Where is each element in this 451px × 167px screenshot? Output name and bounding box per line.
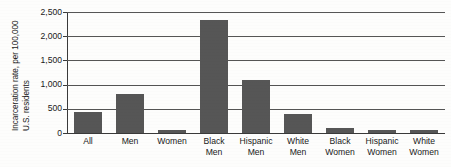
y-axis-tick-labels: 05001,0001,5002,0002,500 [26, 12, 62, 133]
x-axis-tick-label: Men [109, 136, 151, 147]
bar [74, 112, 102, 133]
x-axis-tick-label-line: Black [319, 136, 361, 147]
x-axis-tick-label: BlackMen [193, 136, 235, 157]
gridline [67, 12, 445, 13]
y-axis-tick-mark [63, 133, 67, 134]
x-axis-tick-label-line: Women [319, 147, 361, 158]
bar [368, 130, 396, 133]
x-axis-tick-label-line: Women [151, 136, 193, 147]
y-axis-tick-label: 2,000 [40, 32, 62, 41]
bar [200, 20, 228, 133]
y-axis-tick-mark [63, 60, 67, 61]
y-axis-tick-mark [63, 109, 67, 110]
x-axis-tick-label-line: Hispanic [235, 136, 277, 147]
x-axis-tick-label-line: Women [361, 147, 403, 158]
plot-area [67, 12, 445, 133]
x-axis-tick-label: WhiteWomen [403, 136, 445, 157]
y-axis-tick-label: 500 [48, 104, 62, 113]
x-axis-tick-label: All [67, 136, 109, 147]
x-axis-tick-label-line: Men [277, 147, 319, 158]
gridline [67, 36, 445, 37]
gridline [67, 60, 445, 61]
bar [284, 114, 312, 133]
y-axis-tick-label: 1,500 [40, 56, 62, 65]
x-axis-tick-labels: AllMenWomenBlackMenHispanicMenWhiteMenBl… [67, 136, 445, 167]
x-axis-tick-label-line: Black [193, 136, 235, 147]
x-axis-tick-label-line: Men [193, 147, 235, 158]
y-axis-tick-mark [63, 85, 67, 86]
x-axis-tick-label-line: Hispanic [361, 136, 403, 147]
bar [410, 130, 438, 133]
bar [326, 128, 354, 133]
y-axis-tick-mark [63, 12, 67, 13]
x-axis-tick-label-line: White [277, 136, 319, 147]
x-axis-baseline [67, 133, 445, 134]
bar-chart: Incarceration rate, per 100,000 U.S. res… [0, 0, 451, 167]
x-axis-tick-label: WhiteMen [277, 136, 319, 157]
x-axis-tick-label: HispanicMen [235, 136, 277, 157]
y-axis-tick-label: 0 [57, 129, 62, 138]
y-axis-tick-label: 1,000 [40, 80, 62, 89]
x-axis-tick-label: HispanicWomen [361, 136, 403, 157]
y-axis-tick-label: 2,500 [40, 8, 62, 17]
x-axis-tick-label-line: Women [403, 147, 445, 158]
x-axis-tick-label: BlackWomen [319, 136, 361, 157]
bar [242, 80, 270, 133]
x-axis-tick-label-line: All [67, 136, 109, 147]
x-axis-tick-label: Women [151, 136, 193, 147]
bar [116, 94, 144, 133]
y-axis-tick-mark [63, 36, 67, 37]
x-axis-tick-label-line: Men [235, 147, 277, 158]
x-axis-tick-label-line: White [403, 136, 445, 147]
x-axis-tick-label-line: Men [109, 136, 151, 147]
bar [158, 130, 186, 133]
y-axis-title-line-1: Incarceration rate, per 100,000 [11, 21, 20, 131]
